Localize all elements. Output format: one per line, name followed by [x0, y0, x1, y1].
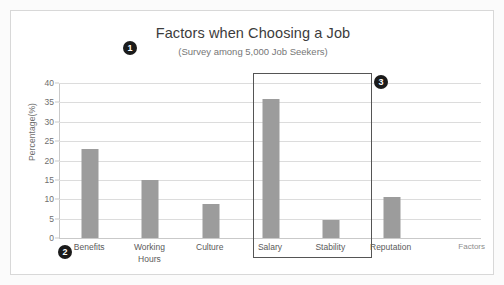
y-axis-tick-label: 15: [45, 175, 54, 185]
x-axis-label-line: Culture: [180, 242, 240, 254]
y-axis-tick-mark: [55, 238, 59, 239]
screenshot-root: Factors when Choosing a Job (Survey amon…: [0, 0, 504, 285]
x-axis-tick-label: Culture: [180, 242, 240, 254]
bar[interactable]: [82, 149, 99, 238]
y-axis-title: Percentage(%): [27, 103, 37, 161]
y-axis-tick-mark: [55, 83, 59, 84]
y-axis-tick-mark: [55, 199, 59, 200]
chart-title-block: Factors when Choosing a Job (Survey amon…: [11, 24, 495, 58]
x-axis-label-line: Reputation: [360, 242, 420, 254]
callout-marker-2: 2: [58, 245, 72, 259]
x-axis-label-line: Salary: [240, 242, 300, 254]
x-axis-baseline: [59, 238, 481, 239]
x-axis-title: Factors: [458, 242, 485, 251]
y-axis-tick-mark: [55, 121, 59, 122]
y-axis-tick-label: 30: [45, 117, 54, 127]
bar-series: [60, 83, 481, 238]
y-axis-tick-label: 10: [45, 194, 54, 204]
bar-slot: [181, 83, 241, 238]
y-axis-tick-label: 35: [45, 97, 54, 107]
y-axis-tick-label: 0: [49, 233, 54, 243]
bar[interactable]: [202, 204, 219, 238]
bar[interactable]: [323, 220, 340, 238]
bar-slot: [120, 83, 180, 238]
x-axis-tick-label: Reputation: [360, 242, 420, 254]
y-axis-tick-label: 5: [49, 214, 54, 224]
plot-area: 0510152025303540: [59, 83, 481, 238]
y-axis-tick-label: 20: [45, 156, 54, 166]
y-axis-tick-label: 40: [45, 78, 54, 88]
chart-subtitle: (Survey among 5,000 Job Seekers): [11, 45, 495, 58]
y-axis-tick-mark: [55, 141, 59, 142]
x-axis-tick-label: Salary: [240, 242, 300, 254]
x-axis-tick-label: WorkingHours: [119, 242, 179, 265]
y-axis-tick-mark: [55, 218, 59, 219]
x-axis-label-line: Hours: [119, 254, 179, 266]
x-axis-tick-label: Stability: [300, 242, 360, 254]
y-axis-tick-mark: [55, 160, 59, 161]
chart-title: Factors when Choosing a Job: [11, 24, 495, 43]
bar[interactable]: [142, 180, 159, 238]
bar-slot: [241, 83, 301, 238]
callout-marker-1: 1: [123, 41, 137, 55]
bar-slot: [361, 83, 421, 238]
y-axis-tick-mark: [55, 102, 59, 103]
y-axis-tick-mark: [55, 179, 59, 180]
bar[interactable]: [383, 197, 400, 238]
callout-marker-3: 3: [374, 75, 388, 89]
bar[interactable]: [262, 99, 279, 239]
y-axis-tick-label: 25: [45, 136, 54, 146]
chart-panel: Factors when Choosing a Job (Survey amon…: [10, 10, 494, 275]
bar-slot: [301, 83, 361, 238]
x-axis-label-line: Working: [119, 242, 179, 254]
x-axis-label-line: Stability: [300, 242, 360, 254]
bar-slot: [60, 83, 120, 238]
